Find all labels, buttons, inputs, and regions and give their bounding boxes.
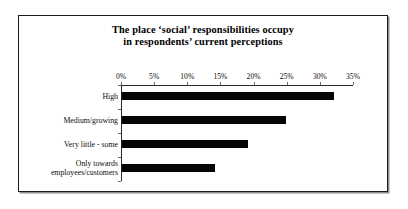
category-axis-tick <box>118 157 121 158</box>
value-axis-tick-label: 20% <box>247 72 261 81</box>
category-axis-tick <box>118 109 121 110</box>
value-axis-tick-label: 25% <box>280 72 294 81</box>
chart-title: The place ‘social’ responsibilities occu… <box>19 24 387 49</box>
value-axis-tick-label: 35% <box>346 72 360 81</box>
category-axis-tick <box>118 181 121 182</box>
category-axis-label-line: Medium/growing <box>39 117 118 126</box>
bar-row <box>122 133 353 157</box>
category-axis-labels: HighMedium/growingVery little - someOnly… <box>39 85 118 181</box>
chart-title-line-1: The place ‘social’ responsibilities occu… <box>37 24 369 36</box>
category-axis-tick <box>118 133 121 134</box>
value-axis-tick-label: 5% <box>149 72 159 81</box>
bar[interactable] <box>122 92 334 100</box>
value-axis-tick-label: 30% <box>313 72 327 81</box>
category-axis-tick <box>118 85 121 86</box>
bar-row <box>122 85 353 109</box>
bar[interactable] <box>122 140 248 148</box>
category-axis-label: Medium/growing <box>39 117 118 126</box>
value-axis-tick-label: 15% <box>213 72 227 81</box>
category-axis-label: High <box>39 93 118 102</box>
chart-title-line-2: in respondents’ current perceptions <box>37 36 369 48</box>
category-axis-label: Very little - some <box>39 141 118 150</box>
bar[interactable] <box>122 164 215 172</box>
chart-frame: The place ‘social’ responsibilities occu… <box>18 15 388 192</box>
bar-row <box>122 109 353 133</box>
category-axis-label-line: High <box>39 93 118 102</box>
plot-area <box>121 85 353 181</box>
value-axis-tick-label: 10% <box>180 72 194 81</box>
value-axis-tick <box>353 82 354 85</box>
category-axis-label: Only towardsemployees/customers <box>39 160 118 177</box>
value-axis-tick-labels: 0%5%10%15%20%25%30%35% <box>121 72 353 84</box>
bar[interactable] <box>122 116 286 124</box>
value-axis-tick-label: 0% <box>116 72 126 81</box>
category-axis-label-line: employees/customers <box>39 169 118 178</box>
category-axis-label-line: Very little - some <box>39 141 118 150</box>
bar-row <box>122 157 353 181</box>
